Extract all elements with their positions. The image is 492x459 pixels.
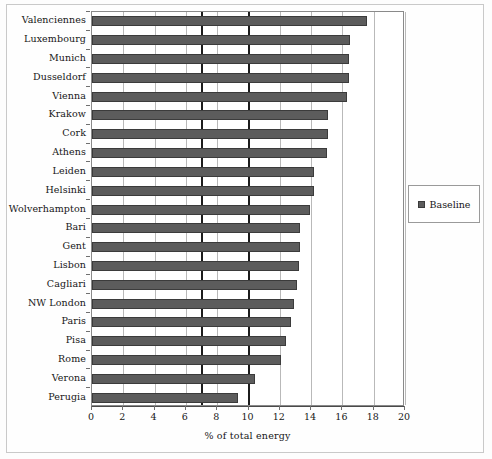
- x-tick-label-14: 14: [304, 411, 316, 422]
- category-tick: [86, 368, 90, 369]
- x-tick-10: [248, 406, 249, 410]
- bar: [92, 110, 328, 120]
- x-tick-8: [216, 406, 217, 410]
- chart-screenshot: ValenciennesLuxembourgMunichDusseldorfVi…: [0, 0, 492, 459]
- x-tick-label-4: 4: [151, 411, 157, 422]
- bar: [92, 336, 286, 346]
- bar: [92, 355, 281, 365]
- x-tick-label-16: 16: [335, 411, 347, 422]
- gridline-20: [405, 12, 406, 405]
- category-tick: [86, 331, 90, 332]
- x-tick-20: [404, 406, 405, 410]
- bar: [92, 280, 297, 290]
- category-tick: [86, 218, 90, 219]
- category-label: Munich: [0, 53, 86, 63]
- gridline-16: [342, 12, 343, 405]
- x-tick-label-2: 2: [119, 411, 125, 422]
- category-tick: [86, 161, 90, 162]
- x-tick-4: [154, 406, 155, 410]
- category-tick: [86, 124, 90, 125]
- category-tick: [86, 312, 90, 313]
- category-label: Dusseldorf: [0, 72, 86, 82]
- gridline-18: [374, 12, 375, 405]
- bar: [92, 92, 347, 102]
- bar: [92, 205, 310, 215]
- x-tick-18: [373, 406, 374, 410]
- category-axis-labels: ValenciennesLuxembourgMunichDusseldorfVi…: [0, 11, 86, 406]
- category-tick: [86, 256, 90, 257]
- x-tick-12: [279, 406, 280, 410]
- category-label: Bari: [0, 222, 86, 232]
- category-label: Helsinki: [0, 185, 86, 195]
- x-tick-label-18: 18: [367, 411, 379, 422]
- bar: [92, 148, 327, 158]
- bar: [92, 73, 349, 83]
- bar: [92, 223, 300, 233]
- bar: [92, 393, 238, 403]
- category-tick: [86, 180, 90, 181]
- x-tick-label-6: 6: [182, 411, 188, 422]
- x-tick-2: [122, 406, 123, 410]
- category-label: Luxembourg: [0, 34, 86, 44]
- category-label: Leiden: [0, 166, 86, 176]
- x-axis-title: % of total energy: [91, 430, 404, 441]
- category-label: Gent: [0, 241, 86, 251]
- gridline-14: [311, 12, 312, 405]
- category-tick: [86, 199, 90, 200]
- category-label: NW London: [0, 298, 86, 308]
- category-label: Cork: [0, 128, 86, 138]
- category-label: Valenciennes: [0, 15, 86, 25]
- bar: [92, 16, 367, 26]
- category-label: Rome: [0, 354, 86, 364]
- category-tick: [86, 105, 90, 106]
- bar: [92, 129, 328, 139]
- category-tick: [86, 86, 90, 87]
- x-tick-16: [341, 406, 342, 410]
- bar: [92, 242, 300, 252]
- category-label: Cagliari: [0, 279, 86, 289]
- x-tick-label-20: 20: [398, 411, 410, 422]
- plot-area-frame: [91, 11, 404, 406]
- x-tick-label-10: 10: [241, 411, 253, 422]
- category-tick: [86, 30, 90, 31]
- x-tick-label-8: 8: [213, 411, 219, 422]
- bar: [92, 186, 314, 196]
- bar: [92, 54, 349, 64]
- category-tick: [86, 143, 90, 144]
- bar: [92, 35, 350, 45]
- bar: [92, 374, 255, 384]
- category-tick: [86, 274, 90, 275]
- bar: [92, 167, 314, 177]
- bar: [92, 317, 291, 327]
- category-label: Vienna: [0, 91, 86, 101]
- x-tick-14: [310, 406, 311, 410]
- category-tick: [86, 350, 90, 351]
- x-tick-6: [185, 406, 186, 410]
- category-label: Lisbon: [0, 260, 86, 270]
- legend-label-baseline: Baseline: [430, 199, 471, 210]
- category-label: Krakow: [0, 109, 86, 119]
- category-tick: [86, 67, 90, 68]
- x-tick-label-12: 12: [273, 411, 285, 422]
- bar: [92, 299, 294, 309]
- category-tick: [86, 387, 90, 388]
- category-tick: [86, 293, 90, 294]
- category-tick: [86, 237, 90, 238]
- x-tick-0: [91, 406, 92, 410]
- legend-swatch-baseline: [418, 201, 425, 208]
- category-label: Wolverhampton: [0, 204, 86, 214]
- category-label: Perugia: [0, 392, 86, 402]
- category-tick: [86, 11, 90, 12]
- category-label: Athens: [0, 147, 86, 157]
- legend-box: Baseline: [408, 185, 480, 223]
- category-tick: [86, 49, 90, 50]
- bar: [92, 261, 299, 271]
- category-label: Verona: [0, 373, 86, 383]
- category-label: Paris: [0, 316, 86, 326]
- x-tick-label-0: 0: [88, 411, 94, 422]
- category-label: Pisa: [0, 335, 86, 345]
